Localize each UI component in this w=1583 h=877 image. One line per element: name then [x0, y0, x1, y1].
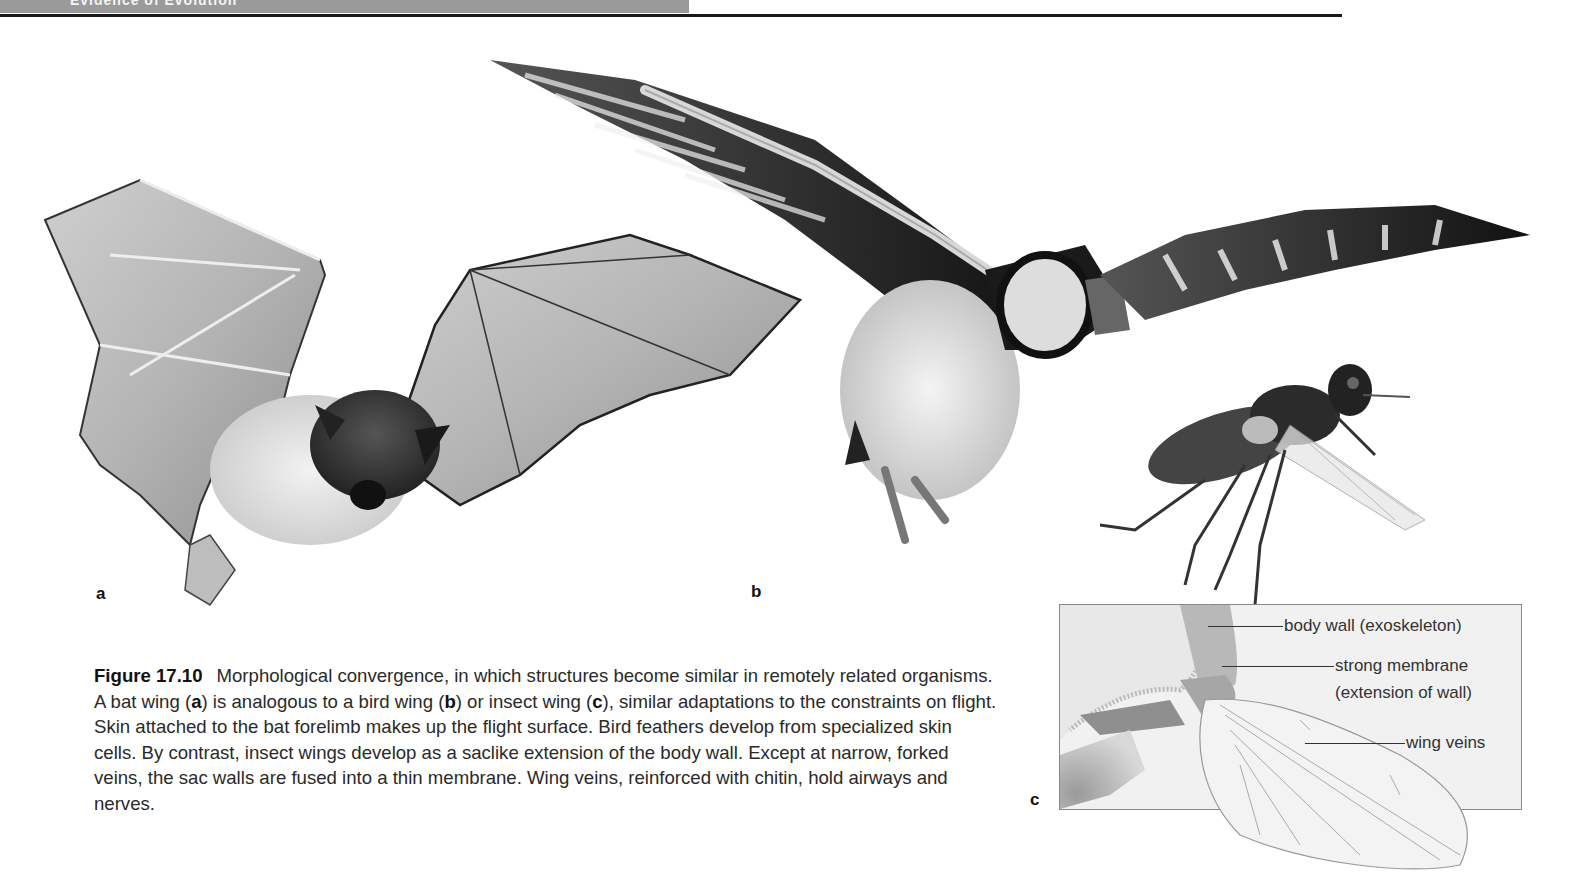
caption-ref-b: b	[444, 691, 455, 712]
caption-text-3: ) or insect wing (	[456, 691, 592, 712]
insect-wing-diagram: body wall (exoskeleton) strong membrane …	[1059, 604, 1522, 810]
leader-strong-membrane	[1222, 666, 1334, 667]
leader-wing-veins	[1305, 743, 1405, 744]
section-header-bar: Evidence of Evolution	[0, 0, 689, 13]
callout-extension-of-wall: (extension of wall)	[1335, 682, 1472, 703]
caption-ref-a: a	[191, 691, 201, 712]
panel-label-a: a	[96, 584, 105, 604]
section-title: Evidence of Evolution	[70, 0, 237, 8]
header-rule	[0, 14, 1342, 17]
caption-text-2: ) is analogous to a bird wing (	[202, 691, 445, 712]
leader-body-wall	[1208, 626, 1283, 627]
callout-wing-veins: wing veins	[1406, 732, 1485, 753]
fly-illustration	[1095, 355, 1435, 605]
callout-strong-membrane: strong membrane	[1335, 655, 1468, 676]
figure-number: Figure 17.10	[94, 665, 203, 686]
callout-body-wall: body wall (exoskeleton)	[1284, 615, 1462, 636]
panel-label-c: c	[1030, 790, 1039, 810]
caption-ref-c: c	[592, 691, 602, 712]
figure-caption: Figure 17.10Morphological convergence, i…	[94, 663, 999, 817]
panel-label-b: b	[751, 582, 761, 602]
